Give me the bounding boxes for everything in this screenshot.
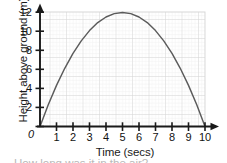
x-tick-label-5: 5 [115,131,131,143]
x-tick-label-7: 7 [148,131,164,143]
chart-figure: Height above ground (m) [0,0,227,163]
x-tick-label-1: 1 [49,131,65,143]
y-tick-label-6: 6 [16,63,32,75]
y-tick-label-8: 8 [16,44,32,56]
x-tick-label-8: 8 [164,131,180,143]
x-tick-label-9: 9 [181,131,197,143]
x-tick-label-3: 3 [82,131,98,143]
origin-label: 0 [28,128,34,140]
x-tick-label-10: 10 [197,131,213,143]
x-tick-label-4: 4 [98,131,114,143]
x-tick-label-6: 6 [131,131,147,143]
y-tick-label-2: 2 [16,101,32,113]
y-tick-label-10: 10 [16,25,32,37]
y-tick-label-4: 4 [16,82,32,94]
x-tick-label-2: 2 [65,131,81,143]
y-tick-label-12: 12 [16,6,32,18]
cropped-text-below-figure: How long was it in the air? [14,157,214,163]
